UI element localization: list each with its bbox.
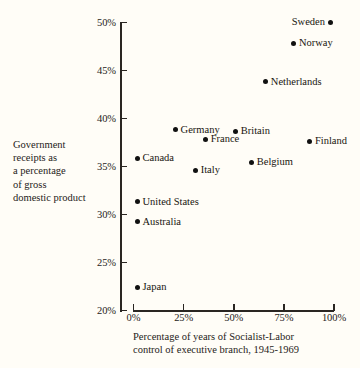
- data-point-marker: [135, 199, 140, 204]
- data-point-marker: [135, 219, 140, 224]
- data-point-label: United States: [143, 197, 199, 208]
- data-point-norway[interactable]: Norway: [291, 38, 332, 49]
- data-point-label: Japan: [143, 282, 167, 293]
- data-point-marker: [307, 139, 312, 144]
- data-point-label: Sweden: [292, 17, 325, 28]
- data-point-marker: [203, 137, 208, 142]
- x-tick-mark: [333, 304, 335, 311]
- x-tick-mark: [133, 304, 135, 311]
- x-tick-label: 50%: [212, 312, 256, 323]
- data-point-marker: [263, 79, 268, 84]
- data-point-canada[interactable]: Canada: [135, 153, 174, 164]
- x-axis-title-line: Percentage of years of Socialist-Labor: [133, 330, 360, 343]
- y-tick-mark: [121, 262, 127, 264]
- y-tick-mark: [121, 70, 127, 72]
- data-point-label: France: [211, 134, 240, 145]
- y-tick-mark: [121, 118, 127, 120]
- scatter-plot: 20%25%30%35%40%45%50% 0%25%50%75%100% Go…: [0, 0, 360, 368]
- data-point-marker: [328, 20, 333, 25]
- y-tick-label: 50%: [78, 17, 116, 28]
- data-point-sweden[interactable]: Sweden: [292, 17, 333, 28]
- data-point-belgium[interactable]: Belgium: [249, 157, 293, 168]
- data-point-label: Netherlands: [271, 77, 322, 88]
- x-tick-label: 75%: [262, 312, 306, 323]
- data-point-netherlands[interactable]: Netherlands: [263, 77, 321, 88]
- x-axis-title: Percentage of years of Socialist-Laborco…: [133, 330, 360, 356]
- data-point-label: Australia: [143, 217, 182, 228]
- data-point-label: Finland: [315, 136, 347, 147]
- data-point-united-states[interactable]: United States: [135, 197, 199, 208]
- x-tick-mark: [233, 304, 235, 311]
- data-point-label: Norway: [299, 38, 333, 49]
- y-tick-mark: [121, 214, 127, 216]
- data-point-label: Italy: [201, 165, 220, 176]
- data-point-marker: [249, 160, 254, 165]
- x-tick-mark: [283, 304, 285, 311]
- data-point-marker: [135, 156, 140, 161]
- y-tick-label: 45%: [78, 65, 116, 76]
- y-tick-mark: [121, 22, 127, 24]
- y-axis-title-line: Government: [13, 138, 117, 151]
- data-point-france[interactable]: France: [203, 134, 239, 145]
- data-point-label: Britain: [241, 126, 270, 137]
- x-tick-mark: [183, 304, 185, 311]
- y-axis-title-line: a percentage: [13, 164, 117, 177]
- data-point-label: Canada: [143, 153, 175, 164]
- y-tick-label: 30%: [78, 209, 116, 220]
- y-axis-title-line: domestic product: [13, 191, 117, 204]
- data-point-marker: [135, 285, 140, 290]
- y-axis-title: Governmentreceipts asa percentageof gros…: [13, 138, 117, 204]
- data-point-label: Belgium: [257, 157, 293, 168]
- data-point-italy[interactable]: Italy: [193, 165, 220, 176]
- y-tick-label: 20%: [78, 305, 116, 316]
- data-point-japan[interactable]: Japan: [135, 282, 166, 293]
- y-tick-mark: [121, 166, 127, 168]
- data-point-australia[interactable]: Australia: [135, 217, 181, 228]
- y-tick-label: 25%: [78, 257, 116, 268]
- y-axis-title-line: of gross: [13, 178, 117, 191]
- x-tick-label: 0%: [112, 312, 156, 323]
- y-tick-label: 40%: [78, 113, 116, 124]
- data-point-finland[interactable]: Finland: [307, 136, 347, 147]
- x-tick-label: 25%: [162, 312, 206, 323]
- x-axis-title-line: control of executive branch, 1945-1969: [133, 343, 360, 356]
- data-point-marker: [173, 127, 178, 132]
- data-point-marker: [291, 41, 296, 46]
- data-point-marker: [193, 168, 198, 173]
- y-axis-title-line: receipts as: [13, 151, 117, 164]
- x-tick-label: 100%: [312, 312, 356, 323]
